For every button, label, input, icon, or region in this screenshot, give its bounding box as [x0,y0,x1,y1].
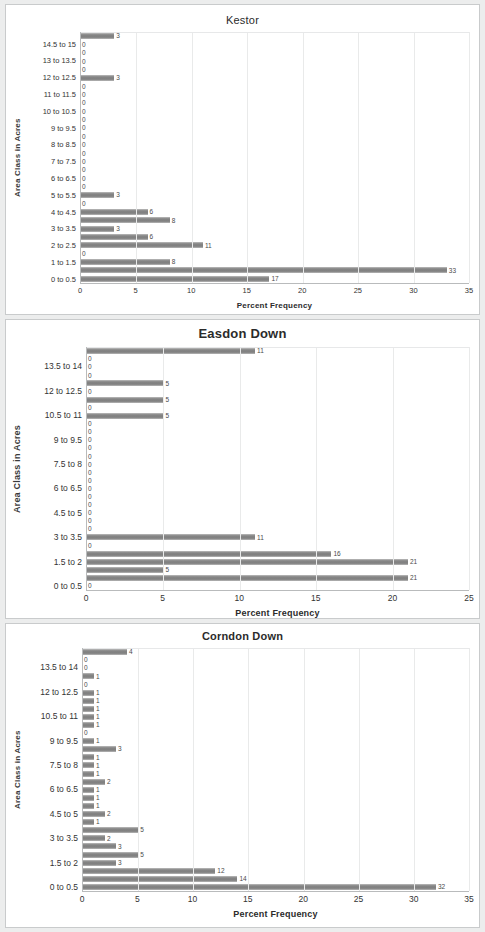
x-axis-spacer [10,284,80,310]
bar-series: 173380116386030000000000000300003 [81,32,469,283]
bar [83,812,105,817]
x-axis-tick-25: 25 [354,894,363,904]
charts-page: Kestor Area Class in Acres 0 to 0.51 to … [0,0,485,932]
bar-value-label: 5 [165,413,169,420]
x-axis-row: 05101520253035 Percent Frequency [6,892,479,919]
y-axis-tick-11-to-11-5: 11 to 11.5 [44,90,76,99]
bar-row: 17 [81,275,469,282]
bar-value-label: 1 [96,803,100,810]
bar-value-label: 0 [82,117,86,124]
bar-value-label: 0 [88,421,92,428]
bar-row: 2 [83,811,469,818]
bar-value-label: 0 [82,100,86,107]
bar [83,836,105,841]
bar [83,674,94,679]
y-axis-tick-0-to-0-5: 0 to 0.5 [51,275,76,284]
x-axis-label: Percent Frequency [86,608,469,618]
bar-value-label: 0 [88,502,92,509]
bar-row: 16 [87,550,469,557]
bar [87,349,255,354]
bar-row: 0 [83,665,469,672]
bar-row: 5 [87,396,469,403]
x-axis-tick-30: 30 [409,286,417,295]
bar-row: 0 [81,141,469,148]
bar-row: 0 [81,91,469,98]
bar-row: 21 [87,574,469,581]
bar-value-label: 3 [118,843,122,850]
bar-value-label: 0 [82,58,86,65]
gridline [414,32,415,283]
y-axis-tick-6-to-6-5: 6 to 6.5 [50,784,78,794]
y-axis-tick-labels: 0 to 0.51.5 to 23 to 3.54.5 to 56 to 6.5… [24,347,86,591]
bar-value-label: 11 [257,348,264,355]
bar-value-label: 5 [140,851,144,858]
bar-value-label: 2 [107,811,111,818]
bar-row: 1 [83,754,469,761]
bar-row: 2 [83,835,469,842]
bar-row: 0 [81,66,469,73]
bar-row: 12 [83,867,469,874]
bar [83,852,138,857]
bar-value-label: 1 [96,673,100,680]
bar-value-label: 0 [82,125,86,132]
bar-row: 1 [83,786,469,793]
bar-value-label: 0 [82,167,86,174]
bar [83,698,94,703]
bar-value-label: 0 [88,404,92,411]
y-axis-tick-2-to-2-5: 2 to 2.5 [51,241,76,250]
bar-value-label: 16 [333,550,340,557]
bar-value-label: 1 [96,786,100,793]
y-axis-tick-9-to-9-5: 9 to 9.5 [51,124,76,133]
bar-row: 0 [81,183,469,190]
bar-row: 0 [87,445,469,452]
bar-row: 32 [83,883,469,890]
chart-panel-easdon-down: Easdon Down Area Class in Acres 0 to 0.5… [5,319,480,619]
bar-value-label: 0 [82,108,86,115]
bar-row: 1 [83,770,469,777]
bar-row: 33 [81,267,469,274]
x-axis-tick-5: 5 [133,286,137,295]
bar-row: 1 [83,819,469,826]
x-axis-tick-0: 0 [84,593,89,603]
bar-row: 1 [83,673,469,680]
bar-row: 0 [87,510,469,517]
bar [81,209,148,214]
bar-row: 0 [87,404,469,411]
bar-row: 0 [81,58,469,65]
bar [83,771,94,776]
gridline [163,347,164,590]
bar-row: 1 [83,762,469,769]
bar-value-label: 17 [271,276,278,283]
y-axis-tick-10-5-to-11: 10.5 to 11 [45,410,82,420]
bar-value-label: 3 [118,859,122,866]
bar-row: 0 [81,41,469,48]
bar-value-label: 0 [82,158,86,165]
bar [83,706,94,711]
bar-value-label: 32 [438,884,445,891]
bar [83,755,94,760]
bar-row: 8 [81,217,469,224]
bar-row: 1 [83,794,469,801]
bar [87,535,255,540]
bar-value-label: 0 [88,510,92,517]
bar-row: 8 [81,259,469,266]
y-axis-tick-6-to-6-5: 6 to 6.5 [54,483,82,493]
bar-value-label: 0 [88,469,92,476]
x-axis-tick-35: 35 [464,894,473,904]
bar [83,820,94,825]
gridline [358,32,359,283]
y-axis-tick-3-to-3-5: 3 to 3.5 [50,833,78,843]
bar-row: 0 [81,125,469,132]
bar-value-label: 3 [116,75,120,82]
bar-value-label: 0 [88,356,92,363]
bar [83,763,94,768]
bar-row: 21 [87,558,469,565]
y-axis-tick-0-to-0-5: 0 to 0.5 [50,882,78,892]
bar-row: 1 [83,697,469,704]
gridline [469,347,470,590]
bar [87,559,408,564]
bar-row: 0 [87,485,469,492]
bar-row: 0 [81,83,469,90]
bar-series: 321412353251211121113101111101004 [83,648,469,891]
bar [81,193,114,198]
